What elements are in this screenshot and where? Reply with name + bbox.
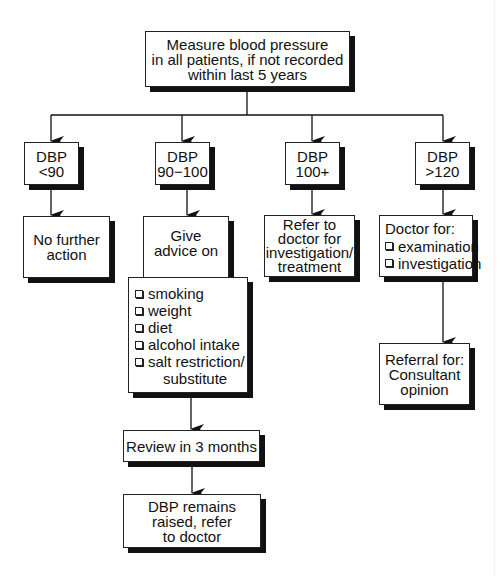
action-node-no-further-action: No further action xyxy=(23,216,110,278)
node-text-line: DBP xyxy=(297,149,328,164)
start-node-measure-bp: Measure blood pressure in all patients, … xyxy=(145,31,350,87)
condition-node-dbp-lt-90: DBP <90 xyxy=(24,142,79,185)
node-text-line: Review in 3 months xyxy=(126,439,257,454)
condition-node-dbp-100-plus: DBP 100+ xyxy=(285,142,340,185)
advice-item-label: smoking xyxy=(148,286,204,301)
advice-item-label: substitute xyxy=(163,371,227,386)
action-node-refer-to-doctor: Refer to doctor for investigation/ treat… xyxy=(264,215,355,277)
condition-node-dbp-90-100: DBP 90−100 xyxy=(155,142,210,185)
advice-item-label: alcohol intake xyxy=(148,337,240,352)
checkbox-bullet-icon xyxy=(135,341,143,349)
node-text-line: DBP xyxy=(167,149,198,164)
node-text-line: DBP xyxy=(36,149,67,164)
advice-item-diet: diet xyxy=(135,319,172,336)
node-text-line: raised, refer xyxy=(152,514,232,529)
advice-item-continuation: substitute xyxy=(135,370,227,387)
advice-item-label: weight xyxy=(148,303,191,318)
condition-node-dbp-gt-120: DBP >120 xyxy=(415,142,470,185)
action-node-dbp-remains-raised: DBP remains raised, refer to doctor xyxy=(123,494,261,548)
checkbox-bullet-icon xyxy=(385,242,393,250)
node-heading: Doctor for: xyxy=(385,221,455,238)
node-text-line: 100+ xyxy=(296,164,330,179)
node-text-line: to doctor xyxy=(163,529,221,544)
node-text-line: 90−100 xyxy=(157,164,207,179)
doctor-item-investigation: investigation xyxy=(385,255,481,272)
advice-item-salt: salt restriction/ xyxy=(135,353,245,370)
checkbox-bullet-icon xyxy=(135,358,143,366)
page-edge-divider xyxy=(494,0,495,576)
node-text-line: advice on xyxy=(154,243,218,258)
flowchart-canvas: Measure blood pressure in all patients, … xyxy=(0,0,501,576)
checkbox-bullet-icon xyxy=(135,290,143,298)
doctor-item-examination: examination xyxy=(385,238,479,255)
node-text-line: within last 5 years xyxy=(188,67,307,82)
checkbox-bullet-icon xyxy=(135,324,143,332)
node-text-line: DBP remains xyxy=(148,499,236,514)
node-text-line: No further xyxy=(33,232,100,247)
advice-item-label: diet xyxy=(148,320,172,335)
checkbox-bullet-icon xyxy=(385,259,393,267)
checkbox-bullet-icon xyxy=(135,307,143,315)
action-node-doctor-for: Doctor for: examination investigation xyxy=(379,215,473,277)
action-node-review-3-months: Review in 3 months xyxy=(123,430,260,462)
node-text-line: DBP xyxy=(427,149,458,164)
node-text-line: Consultant xyxy=(389,367,461,382)
doctor-item-label: examination xyxy=(398,239,479,254)
advice-item-label: salt restriction/ xyxy=(148,354,245,369)
doctor-item-label: investigation xyxy=(398,256,481,271)
advice-item-smoking: smoking xyxy=(135,285,204,302)
advice-list-node: smoking weight diet alcohol intake salt … xyxy=(128,277,248,393)
advice-item-alcohol: alcohol intake xyxy=(135,336,240,353)
node-text-line: >120 xyxy=(426,164,460,179)
node-text-line: Give xyxy=(171,228,202,243)
node-text-line: Measure blood pressure xyxy=(167,37,329,52)
node-text-line: action xyxy=(46,247,86,262)
action-node-referral-consultant: Referral for: Consultant opinion xyxy=(379,343,470,405)
node-text-line: opinion xyxy=(400,382,448,397)
node-text-line: in all patients, if not recorded xyxy=(152,52,344,67)
node-text-line: <90 xyxy=(39,164,64,179)
node-text-line: Referral for: xyxy=(385,352,464,367)
advice-item-weight: weight xyxy=(135,302,191,319)
node-text-line: treatment xyxy=(278,260,341,274)
action-node-give-advice: Give advice on xyxy=(143,216,229,278)
